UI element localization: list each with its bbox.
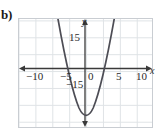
y-tick-label-neg15: −15	[66, 79, 83, 90]
x-tick-label-pos10: 10	[136, 71, 147, 82]
y-axis-arrow-down	[82, 121, 88, 127]
x-axis-label: x	[150, 66, 154, 76]
part-label: b)	[1, 7, 12, 23]
x-tick-label-pos5: 5	[116, 71, 122, 82]
y-tick-label-pos15: 15	[69, 32, 80, 43]
x-tick-label-zero: 0	[88, 71, 94, 82]
x-axis-arrow-left	[19, 66, 25, 72]
y-axis-label: y	[82, 17, 86, 27]
x-tick-label-neg10: −10	[26, 71, 43, 82]
parabola-curve	[58, 19, 114, 115]
figure-container: b) −10 −5 0 5 10 15 −15 y x	[0, 0, 162, 136]
